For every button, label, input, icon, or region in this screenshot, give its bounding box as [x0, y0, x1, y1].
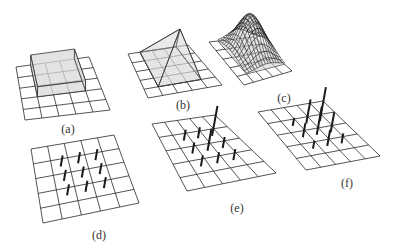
spike [67, 184, 69, 195]
panel-label-d: (d) [92, 228, 106, 243]
panel-label-b: (b) [176, 98, 190, 113]
panel-label-c: (c) [277, 91, 290, 106]
spike [64, 170, 66, 181]
grid-f [258, 101, 380, 170]
spike [327, 130, 330, 146]
panel-f [258, 87, 380, 170]
spike [82, 167, 84, 178]
spike [95, 149, 97, 160]
panel-a [16, 49, 110, 120]
spike [331, 112, 335, 132]
panel-c [209, 14, 292, 86]
panel-label-e: (e) [230, 201, 243, 216]
spike [61, 155, 63, 166]
spike [313, 141, 314, 149]
grid-d [31, 135, 139, 223]
spike [293, 118, 294, 126]
panel-label-a: (a) [61, 122, 74, 137]
spike [192, 142, 194, 153]
spike [306, 99, 310, 123]
spike [104, 177, 106, 188]
spike [201, 155, 203, 166]
panel-d [31, 135, 139, 223]
spike [217, 152, 219, 163]
spike [212, 106, 217, 136]
spike [100, 163, 102, 174]
spike [78, 152, 80, 163]
spike [303, 123, 306, 137]
panel-e [152, 106, 276, 191]
panel-b [128, 29, 222, 98]
panel-label-f: (f) [341, 176, 353, 191]
spike [184, 130, 186, 141]
spike [85, 181, 87, 192]
spike [208, 129, 212, 151]
